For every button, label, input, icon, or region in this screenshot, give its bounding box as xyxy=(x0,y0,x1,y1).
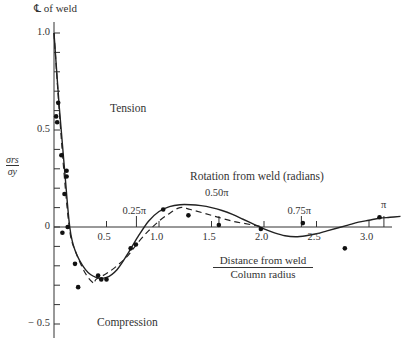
y-tick-label: 0.5 xyxy=(37,123,50,134)
y-label-numerator: σrs xyxy=(6,154,19,166)
x-tick-label: 2.0 xyxy=(255,231,268,242)
x-tick-label: 2.5 xyxy=(308,231,321,242)
data-point xyxy=(64,174,69,179)
data-point xyxy=(343,246,348,251)
data-point xyxy=(55,120,60,125)
data-point xyxy=(186,213,191,218)
data-point xyxy=(76,285,81,290)
data-point xyxy=(128,246,133,251)
rotation-tick-label: 0.50π xyxy=(205,187,229,198)
data-point xyxy=(134,242,139,247)
x-label-denominator: Column radius xyxy=(213,268,313,280)
rotation-axis-label: Rotation from weld (radians) xyxy=(190,170,324,182)
x-axis-label: Distance from weld Column radius xyxy=(213,254,313,280)
data-point xyxy=(161,207,166,212)
data-point xyxy=(60,231,65,236)
data-point xyxy=(104,277,109,282)
data-point xyxy=(217,223,222,228)
y-axis-label: σrs σy xyxy=(6,154,19,177)
data-point xyxy=(96,273,101,278)
data-point xyxy=(73,262,78,267)
y-tick-label: 1.0 xyxy=(37,26,50,37)
data-point xyxy=(54,114,59,119)
data-point xyxy=(377,215,382,220)
tension-label: Tension xyxy=(110,102,146,114)
y-tick-label: 0 xyxy=(45,220,50,231)
data-point xyxy=(99,277,104,282)
rotation-tick-label: 0.25π xyxy=(122,205,146,216)
data-point xyxy=(65,225,70,230)
data-point xyxy=(64,168,69,173)
x-tick-label: 1.0 xyxy=(150,231,163,242)
compression-label: Compression xyxy=(97,316,158,328)
y-label-denominator: σy xyxy=(6,166,19,177)
x-tick-label: 3.0 xyxy=(360,231,373,242)
x-tick-label: 0.5 xyxy=(98,231,111,242)
data-point xyxy=(62,192,67,197)
rotation-tick-label: π xyxy=(381,199,386,210)
data-point xyxy=(56,101,61,106)
data-point xyxy=(301,221,306,226)
dashed-theory-curve xyxy=(54,33,264,283)
x-tick-label: 1.5 xyxy=(203,231,216,242)
rotation-tick-label: 0.75π xyxy=(287,205,311,216)
x-label-numerator: Distance from weld xyxy=(213,254,313,268)
data-point xyxy=(59,153,64,158)
weld-centerline-label: ℄ of weld xyxy=(34,2,77,15)
y-tick-label: − 0.5 xyxy=(28,317,50,328)
